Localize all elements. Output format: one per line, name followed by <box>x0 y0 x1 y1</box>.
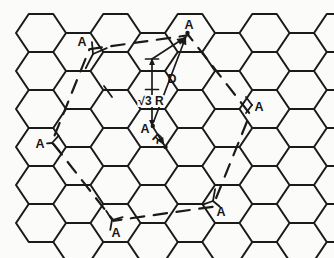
diagram-stage: A A A A A A A D R √3 R <box>0 0 334 258</box>
honeycomb-lattice-figure <box>0 0 334 258</box>
